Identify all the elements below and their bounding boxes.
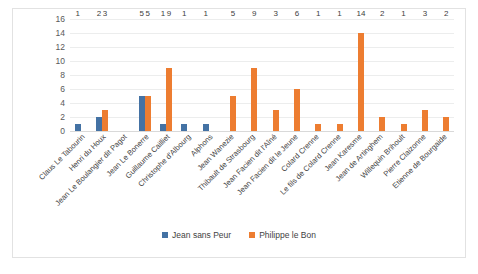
bar-group: 9: [241, 19, 262, 131]
bar-value-label: 1: [401, 10, 405, 18]
bar-slot: [81, 19, 87, 131]
bar-value-label: 14: [356, 10, 365, 18]
bar[interactable]: 1: [315, 124, 321, 131]
gridline: [70, 131, 454, 132]
bar-group: 23: [91, 19, 112, 131]
bar-slot: 5: [230, 19, 236, 131]
bar[interactable]: 2: [379, 117, 385, 131]
legend-item[interactable]: Jean sans Peur: [162, 231, 231, 240]
bar-value-label: 1: [316, 10, 320, 18]
bar[interactable]: 5: [145, 96, 151, 131]
bar-value-label: 3: [423, 10, 427, 18]
bar[interactable]: 2: [443, 117, 449, 131]
bar-value-label: 2: [380, 10, 384, 18]
bar-slot: 9: [251, 19, 257, 131]
bar-group: 19: [155, 19, 176, 131]
bar-value-label: 1: [75, 10, 79, 18]
bar-slot: 3: [422, 19, 428, 131]
bar-slot: 9: [166, 19, 172, 131]
legend-label: Jean sans Peur: [172, 231, 231, 240]
bar-slot: [209, 19, 215, 131]
bar-value-label: 5: [231, 10, 235, 18]
bar-slot: 6: [294, 19, 300, 131]
bar[interactable]: 3: [422, 110, 428, 131]
bar-group: 3: [411, 19, 432, 131]
bar-value-label: 1: [182, 10, 186, 18]
bar-value-label: 2: [444, 10, 448, 18]
bar-slot: 14: [358, 19, 364, 131]
bar-group: 1: [305, 19, 326, 131]
y-axis-tick: 6: [60, 85, 65, 94]
bar-value-label: 3: [273, 10, 277, 18]
bar-group: 6: [283, 19, 304, 131]
bar-group: 55: [134, 19, 155, 131]
bars-layer: 123551911593611142132: [70, 19, 454, 131]
bar-group: 1: [326, 19, 347, 131]
bar-value-label: 1: [337, 10, 341, 18]
bar-value-label: 2: [97, 10, 101, 18]
bar-group: 2: [433, 19, 454, 131]
legend-label: Philippe le Bon: [259, 231, 316, 240]
bar-slot: 2: [443, 19, 449, 131]
bar-group: [113, 19, 134, 131]
bar[interactable]: 9: [166, 68, 172, 131]
bar-slot: 3: [273, 19, 279, 131]
bar-slot: 1: [401, 19, 407, 131]
chart-container: 1614121086420 123551911593611142132 Clau…: [12, 8, 466, 258]
bar-group: 1: [70, 19, 91, 131]
y-axis-tick: 12: [56, 43, 65, 52]
legend-swatch-icon: [162, 232, 168, 238]
bar-slot: 3: [102, 19, 108, 131]
bar-value-label: 9: [252, 10, 256, 18]
bar-value-label: 3: [103, 10, 107, 18]
bar[interactable]: 3: [273, 110, 279, 131]
y-axis-tick: 0: [60, 127, 65, 136]
y-axis-tick: 16: [56, 15, 65, 24]
y-axis-tick: 2: [60, 113, 65, 122]
y-axis: 1614121086420: [46, 19, 68, 131]
bar-group: 1: [390, 19, 411, 131]
bar-slot: 2: [379, 19, 385, 131]
y-axis-tick: 8: [60, 71, 65, 80]
bar-slot: 1: [315, 19, 321, 131]
bar-group: 14: [347, 19, 368, 131]
x-axis-labels: Claus Le TabourinHenri du HouxJean Le Bo…: [70, 133, 454, 225]
legend-item[interactable]: Philippe le Bon: [249, 231, 316, 240]
bar-group: 3: [262, 19, 283, 131]
bar-value-label: 9: [167, 10, 171, 18]
grid-area: 123551911593611142132: [70, 19, 454, 131]
legend-swatch-icon: [249, 232, 255, 238]
bar[interactable]: 5: [230, 96, 236, 131]
bar[interactable]: 9: [251, 68, 257, 131]
bar-value-label: 5: [139, 10, 143, 18]
bar-group: 1: [177, 19, 198, 131]
y-axis-tick: 10: [56, 57, 65, 66]
bar-value-label: 5: [145, 10, 149, 18]
bar-value-label: 1: [203, 10, 207, 18]
bar[interactable]: 3: [102, 110, 108, 131]
bar-group: 1: [198, 19, 219, 131]
bar[interactable]: 6: [294, 89, 300, 131]
bar[interactable]: 1: [401, 124, 407, 131]
bar-slot: [123, 19, 129, 131]
bar-group: 2: [369, 19, 390, 131]
bar-value-label: 1: [161, 10, 165, 18]
bar[interactable]: 14: [358, 33, 364, 131]
bar-group: 5: [219, 19, 240, 131]
y-axis-tick: 14: [56, 29, 65, 38]
bar-slot: 1: [337, 19, 343, 131]
bar-slot: 5: [145, 19, 151, 131]
bar-slot: [187, 19, 193, 131]
chart-legend: Jean sans PeurPhilippe le Bon: [13, 231, 465, 240]
y-axis-tick: 4: [60, 99, 65, 108]
bar-value-label: 6: [295, 10, 299, 18]
plot-area: 1614121086420 123551911593611142132: [46, 19, 454, 131]
bar[interactable]: 1: [337, 124, 343, 131]
